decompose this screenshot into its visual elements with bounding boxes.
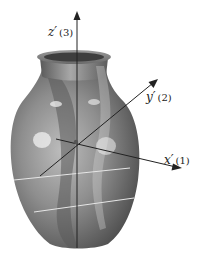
y-axis-symbol: y′: [146, 90, 156, 104]
vase-opening: [44, 53, 104, 62]
z-axis-index: (3): [59, 27, 73, 38]
z-arrowhead: [74, 11, 81, 20]
x-axis-symbol: x′: [164, 153, 174, 167]
vase-diagram: [0, 0, 200, 260]
y-axis-index: (2): [158, 92, 172, 103]
vase-body: [11, 70, 140, 249]
origin-point: [74, 140, 78, 144]
highlight: [88, 99, 100, 105]
y-axis-label: y′(2): [146, 91, 172, 104]
vase: [11, 50, 140, 249]
z-axis-symbol: z′: [48, 25, 57, 39]
x-axis-label: x′(1): [164, 154, 190, 167]
x-axis-index: (1): [176, 155, 190, 166]
highlight: [33, 132, 51, 148]
z-axis-label: z′(3): [48, 26, 73, 39]
highlight: [50, 101, 62, 107]
diagram-stage: z′(3) y′(2) x′(1): [0, 0, 200, 260]
y-arrowhead: [149, 79, 159, 88]
